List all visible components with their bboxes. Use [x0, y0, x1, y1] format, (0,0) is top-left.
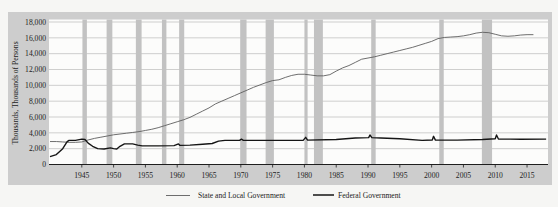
- legend-item-state-local: State and Local Government: [166, 191, 286, 200]
- y-tick-label: 0: [42, 160, 46, 169]
- y-tick-label: 16,000: [25, 34, 46, 43]
- x-tick-label: 1965: [201, 171, 216, 180]
- x-tick-label: 1950: [106, 171, 121, 180]
- line-chart: 02,0004,0006,0008,00010,00012,00014,0001…: [0, 0, 558, 207]
- shaded-band: [439, 20, 443, 165]
- y-tick-label: 8,000: [29, 97, 46, 106]
- x-tick-label: 2015: [519, 171, 534, 180]
- legend: State and Local Government Federal Gover…: [166, 191, 402, 201]
- shaded-band: [482, 20, 492, 165]
- shaded-band: [266, 20, 274, 165]
- shaded-band: [179, 20, 184, 165]
- x-tick-label: 1960: [170, 171, 185, 180]
- plot-area: [49, 20, 548, 165]
- y-tick-label: 12,000: [25, 65, 46, 74]
- x-tick-label: 1945: [74, 171, 89, 180]
- shaded-band: [82, 20, 86, 165]
- y-axis-title: Thousands, Thousands of Persons: [11, 41, 20, 144]
- x-tick-label: 1970: [233, 171, 248, 180]
- legend-label-state-local: State and Local Government: [198, 191, 286, 200]
- x-tick-label: 1975: [265, 171, 280, 180]
- legend-label-federal: Federal Government: [338, 191, 402, 200]
- y-tick-label: 10,000: [25, 81, 46, 90]
- x-tick-label: 1985: [329, 171, 344, 180]
- y-tick-label: 6,000: [29, 113, 46, 122]
- y-tick-label: 4,000: [29, 129, 46, 138]
- shaded-band: [314, 20, 323, 165]
- shaded-band: [371, 20, 375, 165]
- x-tick-label: 2000: [424, 171, 439, 180]
- x-tick-label: 1995: [392, 171, 407, 180]
- y-tick-label: 18,000: [25, 18, 46, 27]
- x-tick-label: 2010: [488, 171, 503, 180]
- shaded-band: [107, 20, 113, 165]
- shaded-band: [162, 20, 166, 165]
- x-tick-label: 1955: [138, 171, 153, 180]
- x-tick-label: 2005: [456, 171, 471, 180]
- shaded-band: [136, 20, 142, 165]
- x-axis-tick-labels: 1945195019551960196519701975198019851990…: [74, 171, 535, 180]
- y-tick-label: 14,000: [25, 49, 46, 58]
- x-tick-label: 1980: [297, 171, 312, 180]
- legend-item-federal: Federal Government: [313, 191, 402, 200]
- y-tick-label: 2,000: [29, 144, 46, 153]
- x-tick-label: 1990: [360, 171, 375, 180]
- shaded-band: [304, 20, 307, 165]
